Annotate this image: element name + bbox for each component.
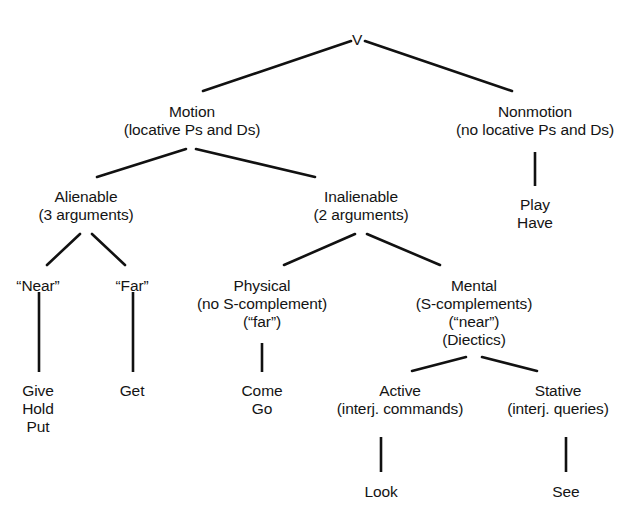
- tree-node-label-line: Nonmotion: [456, 103, 614, 121]
- tree-edge: [365, 41, 512, 91]
- tree-edge: [367, 234, 440, 265]
- tree-node-label-line: “Near”: [16, 277, 59, 295]
- tree-node-label-line: (interj. queries): [507, 400, 609, 418]
- tree-node-label-line: Motion: [124, 103, 261, 121]
- tree-node-near: “Near”: [16, 277, 59, 295]
- tree-node-label-line: Put: [22, 418, 53, 436]
- tree-node-active: Active(interj. commands): [337, 382, 464, 418]
- tree-node-label-line: Play: [517, 196, 553, 214]
- tree-node-label-line: (“near”): [416, 313, 533, 331]
- tree-node-label-line: Go: [242, 400, 283, 418]
- tree-node-come-go: ComeGo: [242, 382, 283, 418]
- tree-node-look: Look: [364, 483, 397, 501]
- tree-edges-layer: [0, 0, 636, 517]
- tree-edge: [97, 149, 186, 177]
- tree-node-get: Get: [120, 382, 145, 400]
- tree-node-label-line: Hold: [22, 400, 53, 418]
- tree-node-give-hold-put: GiveHoldPut: [22, 382, 53, 436]
- tree-node-label-line: V: [352, 31, 362, 49]
- tree-edge: [203, 41, 351, 91]
- tree-node-label-line: Active: [337, 382, 464, 400]
- tree-node-v: V: [352, 31, 362, 49]
- tree-node-motion: Motion(locative Ps and Ds): [124, 103, 261, 139]
- tree-node-label-line: (no locative Ps and Ds): [456, 121, 614, 139]
- tree-node-label-line: Inalienable: [313, 188, 408, 206]
- tree-node-label-line: Physical: [197, 277, 327, 295]
- tree-node-label-line: Give: [22, 382, 53, 400]
- tree-node-label-line: (Diectics): [416, 331, 533, 349]
- tree-node-label-line: Alienable: [38, 188, 133, 206]
- tree-edge: [47, 234, 80, 265]
- tree-edge: [92, 234, 125, 265]
- tree-node-label-line: (locative Ps and Ds): [124, 121, 261, 139]
- tree-node-label-line: (no S-complement): [197, 295, 327, 313]
- tree-node-label-line: (“far”): [197, 313, 327, 331]
- tree-edge: [284, 234, 355, 265]
- tree-node-label-line: (interj. commands): [337, 400, 464, 418]
- tree-node-label-line: Get: [120, 382, 145, 400]
- tree-node-stative: Stative(interj. queries): [507, 382, 609, 418]
- tree-edge: [196, 149, 315, 177]
- tree-node-play-have: PlayHave: [517, 196, 553, 232]
- tree-node-physical: Physical(no S-complement)(“far”): [197, 277, 327, 331]
- tree-diagram-canvas: VMotion(locative Ps and Ds)Nonmotion(no …: [0, 0, 636, 517]
- tree-node-far: “Far”: [115, 277, 148, 295]
- tree-edge: [482, 357, 537, 371]
- tree-node-mental: Mental(S-complements)(“near”)(Diectics): [416, 277, 533, 349]
- tree-node-label-line: Have: [517, 214, 553, 232]
- tree-node-label-line: See: [552, 483, 579, 501]
- tree-edge: [412, 357, 466, 371]
- tree-node-label-line: (3 arguments): [38, 206, 133, 224]
- tree-node-alienable: Alienable(3 arguments): [38, 188, 133, 224]
- tree-node-label-line: “Far”: [115, 277, 148, 295]
- tree-node-see: See: [552, 483, 579, 501]
- tree-node-label-line: Come: [242, 382, 283, 400]
- tree-node-label-line: Stative: [507, 382, 609, 400]
- tree-node-label-line: Mental: [416, 277, 533, 295]
- tree-node-label-line: (S-complements): [416, 295, 533, 313]
- tree-node-label-line: (2 arguments): [313, 206, 408, 224]
- tree-node-inalienable: Inalienable(2 arguments): [313, 188, 408, 224]
- tree-node-label-line: Look: [364, 483, 397, 501]
- tree-node-nonmotion: Nonmotion(no locative Ps and Ds): [456, 103, 614, 139]
